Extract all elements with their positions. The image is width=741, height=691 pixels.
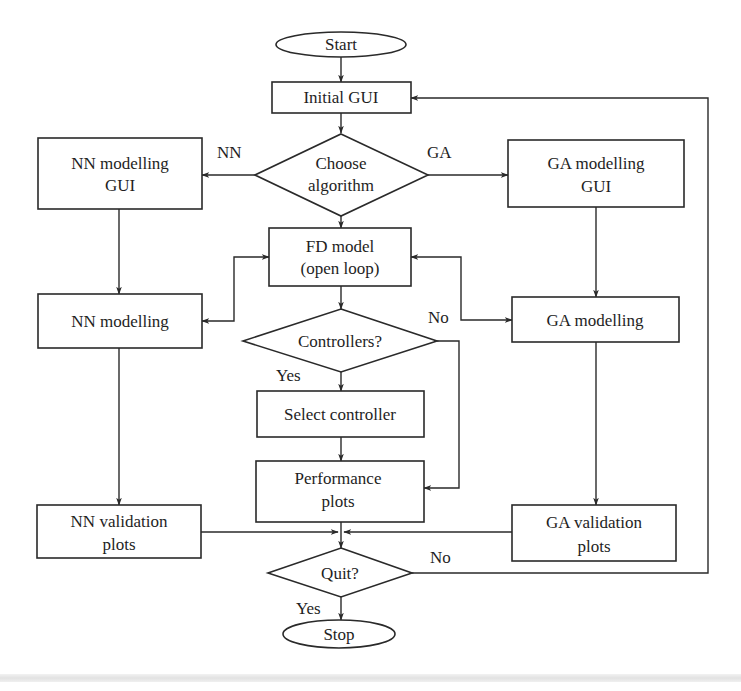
node-nn-modelling-gui: NN modelling GUI (38, 138, 202, 209)
fd-model-label-line1: FD model (306, 237, 375, 256)
node-ga-modelling: GA modelling (512, 297, 679, 342)
edge-controllers-no-to-performance (424, 341, 459, 488)
node-ga-validation-plots: GA validation plots (512, 505, 676, 561)
nn-validation-plots-label-line2: plots (102, 535, 135, 554)
start-label: Start (325, 35, 357, 54)
node-ga-modelling-gui: GA modelling GUI (508, 140, 684, 207)
node-initial-gui: Initial GUI (272, 82, 411, 113)
node-nn-modelling: NN modelling (38, 294, 202, 348)
edge-label-nn: NN (217, 143, 242, 162)
nn-modelling-label: NN modelling (71, 312, 169, 331)
edge-label-ga: GA (427, 143, 452, 162)
edge-label-quit-yes: Yes (296, 599, 321, 618)
nn-modelling-gui-label-line1: NN modelling (71, 154, 169, 173)
choose-algorithm-diamond (255, 134, 428, 216)
edge-label-quit-no: No (430, 548, 451, 567)
performance-plots-label-line1: Performance (295, 469, 382, 488)
choose-algorithm-label-line2: algorithm (308, 176, 374, 195)
stop-label: Stop (323, 625, 354, 644)
quit-label: Quit? (321, 564, 359, 583)
ga-validation-plots-label-line1: GA validation (546, 513, 642, 532)
node-stop: Stop (283, 620, 395, 648)
node-nn-validation-plots: NN validation plots (37, 505, 201, 558)
select-controller-label: Select controller (284, 405, 396, 424)
node-choose-algorithm: Choose algorithm (255, 134, 428, 216)
initial-gui-label: Initial GUI (303, 88, 378, 107)
edge-label-controllers-no: No (428, 308, 449, 327)
ga-modelling-gui-label-line1: GA modelling (548, 154, 645, 173)
nn-validation-plots-label-line1: NN validation (71, 512, 168, 531)
edge-label-controllers-yes: Yes (276, 366, 301, 385)
page-bottom-divider (0, 674, 741, 682)
node-select-controller: Select controller (257, 391, 424, 437)
node-controllers: Controllers? (243, 309, 437, 372)
ga-modelling-gui-box (508, 140, 684, 207)
choose-algorithm-label-line1: Choose (316, 154, 367, 173)
nn-modelling-gui-box (38, 138, 202, 209)
ga-modelling-label: GA modelling (547, 311, 644, 330)
node-start: Start (276, 32, 406, 57)
node-quit: Quit? (268, 548, 412, 597)
node-performance-plots: Performance plots (256, 461, 424, 522)
edge-fd-model-nn-modelling-bidirectional (202, 257, 269, 321)
edge-fd-model-ga-modelling-bidirectional (411, 257, 512, 320)
flowchart-diagram: Start Initial GUI Choose algorithm NN GA… (0, 0, 741, 691)
ga-validation-plots-label-line2: plots (577, 537, 610, 556)
controllers-label: Controllers? (298, 332, 382, 351)
ga-modelling-gui-label-line2: GUI (581, 177, 612, 196)
fd-model-label-line2: (open loop) (301, 259, 380, 278)
nn-modelling-gui-label-line2: GUI (105, 176, 136, 195)
node-fd-model: FD model (open loop) (269, 228, 411, 286)
performance-plots-label-line2: plots (321, 492, 354, 511)
